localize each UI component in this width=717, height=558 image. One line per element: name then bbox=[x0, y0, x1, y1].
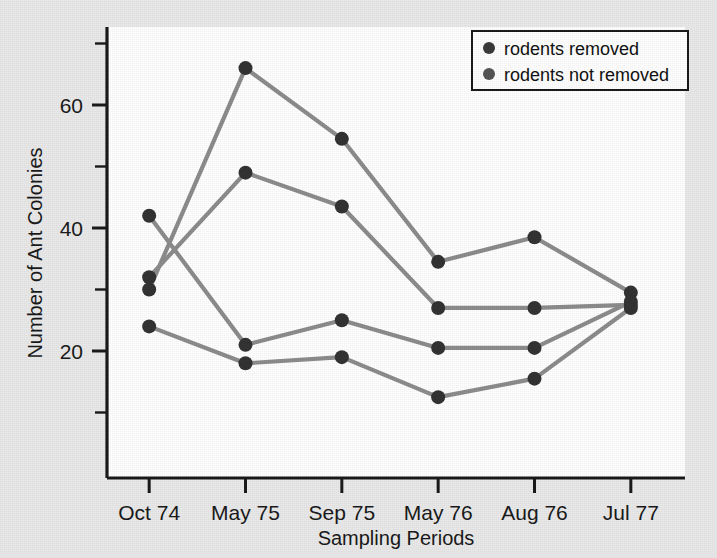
legend-marker-icon-1 bbox=[483, 68, 495, 80]
x-tick-label: Sep 75 bbox=[309, 501, 376, 524]
data-point-marker bbox=[142, 209, 156, 223]
data-point-marker bbox=[239, 166, 253, 180]
x-axis-title: Sampling Periods bbox=[318, 527, 475, 549]
data-point-marker bbox=[624, 301, 638, 315]
data-point-marker bbox=[528, 341, 542, 355]
data-point-marker bbox=[142, 283, 156, 297]
figure-container: 204060 Oct 74May 75Sep 75May 76Aug 76Jul… bbox=[0, 0, 717, 558]
data-point-marker bbox=[431, 341, 445, 355]
data-point-marker bbox=[431, 301, 445, 315]
x-tick-label: May 75 bbox=[211, 501, 280, 524]
x-tick-label: Aug 76 bbox=[501, 501, 568, 524]
y-tick-label: 60 bbox=[60, 94, 83, 117]
y-axis-ticks: 204060 bbox=[60, 44, 107, 413]
x-tick-label: May 76 bbox=[404, 501, 473, 524]
y-tick-label: 40 bbox=[60, 217, 83, 240]
x-axis-ticks: Oct 74May 75Sep 75May 76Aug 76Jul 77 bbox=[118, 478, 659, 524]
data-point-marker bbox=[431, 390, 445, 404]
data-point-marker bbox=[431, 255, 445, 269]
x-tick-label: Jul 77 bbox=[603, 501, 659, 524]
data-point-marker bbox=[335, 350, 349, 364]
data-point-marker bbox=[239, 356, 253, 370]
x-tick-label: Oct 74 bbox=[118, 501, 180, 524]
y-axis-title: Number of Ant Colonies bbox=[24, 147, 46, 358]
legend-label-1: rodents not removed bbox=[504, 65, 669, 85]
data-point-marker bbox=[239, 61, 253, 75]
data-point-marker bbox=[528, 230, 542, 244]
plot-area bbox=[107, 27, 685, 478]
line-chart: 204060 Oct 74May 75Sep 75May 76Aug 76Jul… bbox=[0, 0, 717, 558]
data-point-marker bbox=[335, 132, 349, 146]
data-point-marker bbox=[528, 301, 542, 315]
y-tick-label: 20 bbox=[60, 340, 83, 363]
legend-marker-icon-0 bbox=[483, 42, 495, 54]
data-point-marker bbox=[239, 338, 253, 352]
data-point-marker bbox=[142, 319, 156, 333]
legend-label-0: rodents removed bbox=[504, 39, 639, 59]
data-point-marker bbox=[335, 199, 349, 213]
legend: rodents removed rodents not removed bbox=[472, 31, 688, 90]
data-point-marker bbox=[142, 270, 156, 284]
data-point-marker bbox=[335, 313, 349, 327]
data-point-marker bbox=[528, 372, 542, 386]
